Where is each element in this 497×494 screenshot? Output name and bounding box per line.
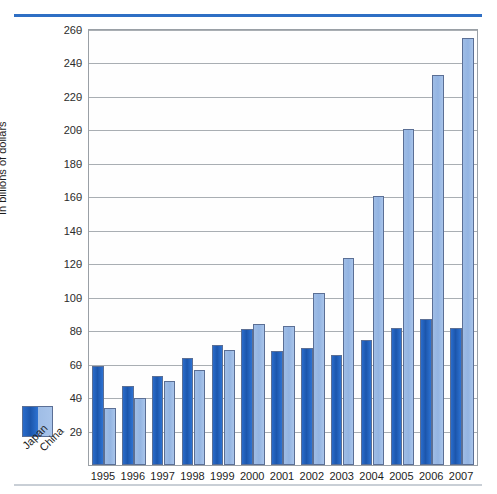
bar-japan-1998 — [182, 358, 194, 465]
bar-china-2000 — [253, 324, 265, 465]
bar-japan-2005 — [391, 328, 403, 465]
bar-japan-1997 — [152, 376, 164, 465]
x-axis-tick-label: 1995 — [91, 470, 115, 482]
x-axis-tick-label: 2006 — [419, 470, 443, 482]
bar-china-2005 — [403, 129, 415, 465]
bar-japan-2006 — [420, 319, 432, 465]
bar-group — [417, 30, 447, 465]
bar-group — [387, 30, 417, 465]
bar-japan-2007 — [450, 328, 462, 465]
x-axis-tick-label: 1998 — [180, 470, 204, 482]
bar-japan-2000 — [241, 329, 253, 465]
top-divider — [14, 14, 482, 17]
bar-group — [268, 30, 298, 465]
y-axis-tick-mark — [77, 231, 82, 232]
bar-group — [298, 30, 328, 465]
x-axis-tick-label: 1996 — [121, 470, 145, 482]
bar-japan-2001 — [271, 351, 283, 465]
y-axis-tick-mark — [77, 298, 82, 299]
bar-china-2003 — [343, 258, 355, 465]
bar-china-2001 — [283, 326, 295, 465]
x-axis-tick-label: 1999 — [210, 470, 234, 482]
bar-group — [447, 30, 477, 465]
x-axis-tick-label: 2000 — [240, 470, 264, 482]
y-axis-tick-mark — [77, 331, 82, 332]
y-axis-tick-mark — [77, 30, 82, 31]
y-axis-tick-mark — [77, 130, 82, 131]
y-axis-labels: 20406080100120140160180200220240260 — [44, 29, 82, 466]
y-axis-tick-mark — [77, 432, 82, 433]
bar-china-1999 — [224, 350, 236, 465]
bar-china-1996 — [134, 398, 146, 465]
y-axis-tick-mark — [77, 197, 82, 198]
y-axis-tick-mark — [77, 264, 82, 265]
bar-group — [208, 30, 238, 465]
y-axis-tick-mark — [77, 63, 82, 64]
x-axis-tick-label: 1997 — [150, 470, 174, 482]
bar-group — [149, 30, 179, 465]
bar-japan-1999 — [212, 345, 224, 465]
bar-japan-2003 — [331, 355, 343, 465]
bar-group — [358, 30, 388, 465]
bar-japan-1996 — [122, 386, 134, 465]
x-axis-tick-label: 2003 — [329, 470, 353, 482]
x-axis-tick-label: 2005 — [389, 470, 413, 482]
y-axis-tick-mark — [77, 97, 82, 98]
chart-legend: Japan China — [22, 406, 53, 437]
y-axis-tick-mark — [77, 164, 82, 165]
x-axis-tick-label: 2001 — [270, 470, 294, 482]
bar-japan-1995 — [92, 366, 104, 465]
bar-group — [179, 30, 209, 465]
x-axis-tick-label: 2002 — [300, 470, 324, 482]
bar-china-2002 — [313, 293, 325, 465]
bar-group — [328, 30, 358, 465]
legend-labels: Japan China — [18, 439, 88, 485]
y-axis-title: In billions of dollars — [0, 121, 8, 215]
bar-china-2007 — [462, 38, 474, 465]
bar-china-2006 — [432, 75, 444, 465]
bar-group — [119, 30, 149, 465]
bar-chart-plot-area — [88, 29, 478, 466]
bar-japan-2002 — [301, 348, 313, 465]
x-axis-tick-label: 2007 — [449, 470, 473, 482]
y-axis-tick-mark — [77, 365, 82, 366]
bar-china-1995 — [104, 408, 116, 465]
bar-china-2004 — [373, 196, 385, 465]
bar-china-1998 — [194, 370, 206, 465]
y-axis-tick-mark — [77, 398, 82, 399]
bar-group — [238, 30, 268, 465]
bar-china-1997 — [164, 381, 176, 465]
x-axis-tick-label: 2004 — [359, 470, 383, 482]
bar-japan-2004 — [361, 340, 373, 465]
bar-group — [89, 30, 119, 465]
